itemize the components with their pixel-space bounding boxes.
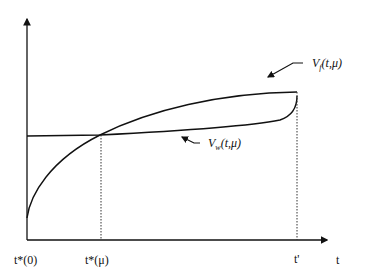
- tick-label-tprime: t': [294, 252, 300, 267]
- tick-label-t0: t*(0): [14, 253, 37, 268]
- diagram-canvas: Vf(t,μ) Vw(t,μ) t*(0) t*(μ) t' t: [0, 0, 366, 275]
- vw-curve: [27, 96, 297, 136]
- diagram-svg: [0, 0, 366, 275]
- vf-label: Vf(t,μ): [312, 56, 342, 72]
- vw-pointer-arrow: [182, 137, 200, 143]
- vw-label: Vw(t,μ): [208, 136, 241, 152]
- tick-label-tmu: t*(μ): [85, 253, 109, 268]
- vf-curve: [27, 92, 297, 218]
- vf-pointer-arrow: [268, 63, 303, 77]
- x-axis-label: t: [336, 253, 339, 268]
